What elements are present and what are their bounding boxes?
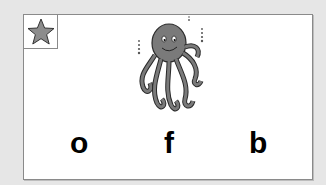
activity-card: o f b: [23, 14, 313, 180]
letter-choice-o[interactable]: o: [70, 123, 88, 163]
octopus-picture: [129, 13, 209, 117]
star-icon: [26, 17, 56, 47]
star-button[interactable]: [24, 15, 58, 49]
letter-choice-f[interactable]: f: [164, 123, 174, 163]
letter-choice-b[interactable]: b: [249, 123, 267, 163]
letter-choices: o f b: [24, 123, 312, 163]
